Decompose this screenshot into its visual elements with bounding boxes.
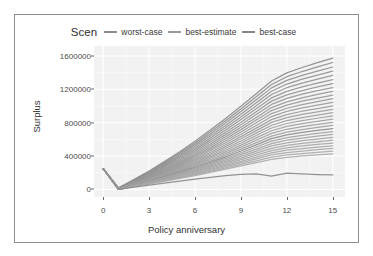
x-tick-mark: [103, 197, 104, 200]
x-tick-label: 6: [180, 206, 210, 215]
y-tick-label: 0: [33, 185, 91, 194]
chart-figure: Scen worst-case best-estimate best-case …: [14, 14, 359, 243]
legend-label: best-case: [259, 27, 296, 37]
legend-key-line-icon: [242, 31, 255, 33]
y-tick-label: 400000: [33, 152, 91, 161]
x-tick-label: 12: [272, 206, 302, 215]
x-axis: 03691215: [94, 197, 360, 227]
x-tick-label: 0: [88, 206, 118, 215]
legend-item-best-case[interactable]: best-case: [242, 27, 296, 37]
x-tick-label: 3: [134, 206, 164, 215]
plot-canvas: [94, 46, 345, 197]
legend-label: best-estimate: [185, 27, 236, 37]
y-axis: 040000080000012000001600000: [29, 15, 91, 244]
x-tick-label: 9: [226, 206, 256, 215]
x-tick-mark: [149, 197, 150, 200]
plot-panel: [94, 46, 345, 197]
legend-label: worst-case: [121, 27, 162, 37]
y-tick-label: 800000: [33, 118, 91, 127]
y-tick-label: 1200000: [33, 85, 91, 94]
x-tick-mark: [287, 197, 288, 200]
legend-key-line-icon: [168, 31, 181, 33]
legend-item-worst-case[interactable]: worst-case: [104, 27, 162, 37]
x-tick-mark: [241, 197, 242, 200]
x-tick-label: 15: [318, 206, 348, 215]
x-tick-mark: [195, 197, 196, 200]
legend-item-best-estimate[interactable]: best-estimate: [168, 27, 236, 37]
x-tick-mark: [333, 197, 334, 200]
legend-key-line-icon: [104, 31, 117, 33]
y-tick-label: 1600000: [33, 52, 91, 61]
